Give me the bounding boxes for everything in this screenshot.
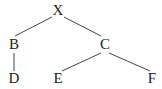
edge-c-f — [109, 53, 150, 71]
node-c: C — [100, 36, 110, 52]
edge-x-c — [64, 17, 101, 36]
node-d: D — [9, 70, 20, 86]
edges — [14, 17, 150, 71]
edge-x-b — [15, 17, 52, 36]
node-f: F — [148, 70, 156, 86]
node-e: E — [53, 70, 62, 86]
node-x: X — [53, 2, 64, 18]
edge-c-e — [62, 53, 101, 71]
tree-diagram: X B C D E F — [0, 0, 162, 89]
nodes: X B C D E F — [9, 2, 157, 86]
node-b: B — [9, 36, 19, 52]
